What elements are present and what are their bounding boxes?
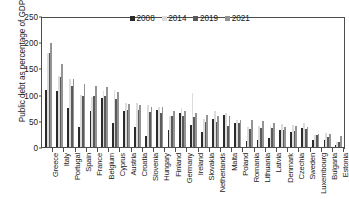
x-tick-mark <box>176 148 187 152</box>
bar <box>340 136 342 147</box>
x-label-cell: Slovenia <box>143 153 154 213</box>
bar-group <box>43 17 54 147</box>
bar <box>173 111 175 147</box>
bar-group <box>132 17 143 147</box>
bar <box>151 107 153 147</box>
bar-group <box>154 17 165 147</box>
bar <box>61 64 63 147</box>
x-label-cell: Luxembourg <box>311 153 322 213</box>
x-tick-mark <box>154 148 165 152</box>
x-axis-ticks <box>41 148 345 152</box>
bar <box>106 87 108 147</box>
bar <box>95 86 97 147</box>
x-label-cell: Portugal <box>64 153 75 213</box>
x-tick-mark <box>221 148 232 152</box>
x-label-cell: Germany <box>176 153 187 213</box>
x-label-cell: Croatia <box>132 153 143 213</box>
x-label-cell: Italy <box>53 153 64 213</box>
x-label-cell: Ireland <box>187 153 198 213</box>
bar <box>184 111 186 147</box>
x-tick-mark <box>277 148 288 152</box>
bar-chart: Public debt as percentage of GDP 2502001… <box>0 0 349 215</box>
bar-group <box>188 17 199 147</box>
bar-group <box>255 17 266 147</box>
x-tick-mark <box>210 148 221 152</box>
x-label-cell: France <box>87 153 98 213</box>
legend-swatch-icon <box>193 16 198 21</box>
bar-group <box>299 17 310 147</box>
legend-item: 2014 <box>162 14 187 23</box>
x-label-cell: Greece <box>42 153 53 213</box>
x-tick-mark <box>165 148 176 152</box>
bar-group <box>110 17 121 147</box>
x-tick-mark <box>98 148 109 152</box>
x-tick-mark <box>87 148 98 152</box>
x-label-cell: Poland <box>232 153 243 213</box>
x-tick-mark <box>42 148 53 152</box>
x-label-cell: Sweden <box>299 153 310 213</box>
bar-group <box>266 17 277 147</box>
x-label-cell: Netherlands <box>210 153 221 213</box>
x-tick-mark <box>187 148 198 152</box>
bar-group <box>333 17 344 147</box>
bar <box>262 121 264 147</box>
bar-group <box>310 17 321 147</box>
bar <box>50 43 52 147</box>
x-label-cell: Cyprus <box>109 153 120 213</box>
bar <box>284 127 286 147</box>
bar-group <box>65 17 76 147</box>
bar <box>251 120 253 147</box>
bar <box>73 79 75 147</box>
bar-group <box>143 17 154 147</box>
bar-group <box>166 17 177 147</box>
bar <box>217 116 219 147</box>
legend-item: 2019 <box>193 14 218 23</box>
x-label-cell: Czechia <box>288 153 299 213</box>
x-label-cell: Estonia <box>333 153 344 213</box>
x-label-cell: Romania <box>243 153 254 213</box>
bar-group <box>88 17 99 147</box>
x-tick-mark <box>288 148 299 152</box>
bar-group <box>288 17 299 147</box>
plot-area: 250200150100500 <box>41 17 345 148</box>
bar <box>195 113 197 147</box>
x-label-cell: Hungary <box>154 153 165 213</box>
bar-group <box>244 17 255 147</box>
x-tick-mark <box>322 148 333 152</box>
x-label-cell: Denmark <box>277 153 288 213</box>
bar-group <box>76 17 87 147</box>
bar <box>128 104 130 147</box>
x-label-cell: Lithuania <box>255 153 266 213</box>
legend-swatch-icon <box>225 16 230 21</box>
bar <box>139 105 141 147</box>
y-tick-mark <box>39 17 42 18</box>
x-label-cell: Spain <box>76 153 87 213</box>
chart-legend: 2008201420192021 <box>130 14 250 23</box>
bar-group <box>277 17 288 147</box>
legend-label: 2021 <box>232 14 250 23</box>
x-tick-mark <box>299 148 310 152</box>
bar <box>318 134 320 147</box>
bar-group <box>99 17 110 147</box>
x-tick-mark <box>64 148 75 152</box>
bar <box>307 127 309 147</box>
x-tick-mark <box>243 148 254 152</box>
y-tick-mark <box>39 43 42 44</box>
x-label-cell: Latvia <box>266 153 277 213</box>
legend-label: 2019 <box>200 14 218 23</box>
x-tick-mark <box>109 148 120 152</box>
bar <box>84 84 86 147</box>
bar <box>229 116 231 147</box>
bar-group <box>221 17 232 147</box>
bar <box>240 120 242 147</box>
x-tick-mark <box>76 148 87 152</box>
bar <box>329 134 331 147</box>
x-axis-labels: GreeceItalyPortugalSpainFranceBelgiumCyp… <box>41 153 345 213</box>
x-tick-mark <box>143 148 154 152</box>
x-tick-mark <box>266 148 277 152</box>
y-tick-mark <box>39 121 42 122</box>
x-tick-mark <box>53 148 64 152</box>
bar <box>206 115 208 147</box>
bar-group <box>54 17 65 147</box>
x-tick-mark <box>333 148 344 152</box>
